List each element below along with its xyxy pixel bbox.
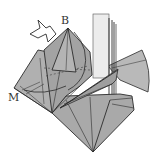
vertical-white-layers [93, 14, 116, 106]
origami-model [0, 0, 162, 162]
point-label-b: B [61, 15, 69, 26]
lower-diamond-section [52, 94, 134, 152]
origami-diagram: B M [0, 0, 162, 162]
push-arrow-icon [30, 20, 56, 42]
point-label-m: M [8, 92, 19, 103]
